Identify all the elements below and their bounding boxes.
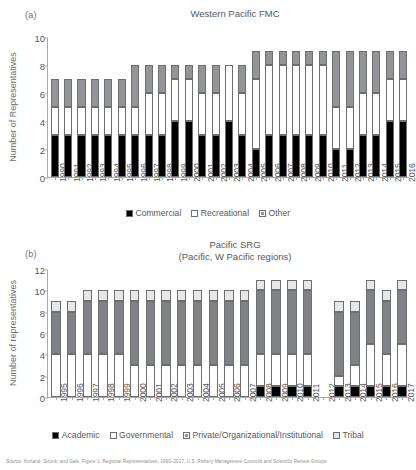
bar-segment[interactable] <box>240 290 249 301</box>
bar-segment[interactable] <box>131 65 139 107</box>
bar-segment[interactable] <box>171 79 179 121</box>
bar-segment[interactable] <box>359 51 367 93</box>
bar-segment[interactable] <box>104 107 112 135</box>
bar-segment[interactable] <box>104 79 112 107</box>
bar-segment[interactable] <box>372 51 380 93</box>
bar-segment[interactable] <box>332 107 340 149</box>
bar-segment[interactable] <box>212 93 220 135</box>
bar-segment[interactable] <box>271 290 280 354</box>
bar-segment[interactable] <box>161 301 170 365</box>
bar-segment[interactable] <box>305 65 313 135</box>
bar-segment[interactable] <box>265 135 273 177</box>
bar-segment[interactable] <box>158 93 166 135</box>
legend-item[interactable]: Other <box>259 208 290 218</box>
bar-group[interactable]: 1996 <box>64 270 80 397</box>
bar-group[interactable]: 2010 <box>316 38 329 177</box>
bar-group[interactable]: 1997 <box>79 270 95 397</box>
bar-segment[interactable] <box>271 354 280 386</box>
bar-segment[interactable] <box>98 290 107 301</box>
legend-item[interactable]: Private/Organizational/Institutional <box>183 430 323 440</box>
bar-segment[interactable] <box>334 301 343 312</box>
bar-segment[interactable] <box>98 301 107 354</box>
bar-group[interactable]: 2009 <box>303 38 316 177</box>
bar-segment[interactable] <box>193 290 202 301</box>
bar-group[interactable]: 2004 <box>236 38 249 177</box>
bar-group[interactable]: 2002 <box>209 38 222 177</box>
bar-segment[interactable] <box>177 301 186 365</box>
bar-segment[interactable] <box>292 65 300 135</box>
bar-group[interactable]: 2006 <box>263 38 276 177</box>
bar-segment[interactable] <box>397 344 406 387</box>
bar-segment[interactable] <box>366 280 375 291</box>
bar-segment[interactable] <box>51 312 60 355</box>
bar-segment[interactable] <box>366 290 375 343</box>
bar-segment[interactable] <box>161 290 170 301</box>
bar-segment[interactable] <box>118 79 126 107</box>
bar-group[interactable]: 2008 <box>289 38 302 177</box>
legend-item[interactable]: Governmental <box>110 430 173 440</box>
bar-segment[interactable] <box>397 280 406 291</box>
bar-group[interactable]: 2014 <box>370 38 383 177</box>
bar-group[interactable]: 1999 <box>169 38 182 177</box>
bar-segment[interactable] <box>118 107 126 135</box>
bar-segment[interactable] <box>67 301 76 312</box>
bar-segment[interactable] <box>366 344 375 387</box>
bar-group[interactable]: 2013 <box>331 270 347 397</box>
bar-segment[interactable] <box>397 290 406 343</box>
bar-segment[interactable] <box>265 51 273 65</box>
bar-segment[interactable] <box>279 51 287 65</box>
bar-segment[interactable] <box>114 301 123 354</box>
bar-segment[interactable] <box>225 65 233 121</box>
bar-group[interactable]: 2015 <box>363 270 379 397</box>
bar-segment[interactable] <box>386 51 394 79</box>
bar-segment[interactable] <box>146 301 155 365</box>
bar-segment[interactable] <box>177 290 186 301</box>
bar-group[interactable]: 2007 <box>276 38 289 177</box>
bar-segment[interactable] <box>145 65 153 93</box>
bar-segment[interactable] <box>382 301 391 354</box>
bar-group[interactable]: 1996 <box>128 38 141 177</box>
bar-segment[interactable] <box>130 301 139 365</box>
bar-segment[interactable] <box>287 290 296 354</box>
bar-segment[interactable] <box>238 93 246 135</box>
bar-segment[interactable] <box>256 290 265 354</box>
bar-segment[interactable] <box>240 301 249 365</box>
bar-segment[interactable] <box>279 65 287 135</box>
bar-segment[interactable] <box>252 79 260 149</box>
bar-segment[interactable] <box>256 280 265 291</box>
bar-segment[interactable] <box>185 79 193 121</box>
bar-group[interactable]: 1995 <box>48 270 64 397</box>
bar-segment[interactable] <box>350 301 359 312</box>
bar-segment[interactable] <box>332 51 340 107</box>
bar-segment[interactable] <box>158 65 166 93</box>
bar-group[interactable]: 2012 <box>343 38 356 177</box>
bar-segment[interactable] <box>238 65 246 93</box>
bar-segment[interactable] <box>252 51 260 79</box>
bar-segment[interactable] <box>171 65 179 79</box>
bar-segment[interactable] <box>382 290 391 301</box>
bar-group[interactable]: 2003 <box>222 38 235 177</box>
bar-segment[interactable] <box>64 107 72 135</box>
bar-segment[interactable] <box>399 79 407 121</box>
bar-segment[interactable] <box>382 354 391 386</box>
bar-group[interactable]: 1991 <box>61 38 74 177</box>
bar-segment[interactable] <box>83 301 92 354</box>
bar-segment[interactable] <box>212 65 220 93</box>
bar-segment[interactable] <box>145 93 153 135</box>
bar-group[interactable]: 2005 <box>205 270 221 397</box>
bar-segment[interactable] <box>305 51 313 65</box>
bar-group[interactable]: 2005 <box>249 38 262 177</box>
legend-item[interactable]: Recreational <box>191 208 249 218</box>
bar-segment[interactable] <box>64 135 72 177</box>
bar-group[interactable]: 2012 <box>316 270 332 397</box>
bar-segment[interactable] <box>303 280 312 291</box>
bar-group[interactable]: 2008 <box>253 270 269 397</box>
bar-segment[interactable] <box>77 79 85 107</box>
bar-segment[interactable] <box>193 301 202 365</box>
bar-group[interactable]: 2004 <box>190 270 206 397</box>
bar-group[interactable]: 2007 <box>237 270 253 397</box>
bar-segment[interactable] <box>51 79 59 107</box>
bar-segment[interactable] <box>287 354 296 386</box>
bar-group[interactable]: 2011 <box>300 270 316 397</box>
bar-segment[interactable] <box>224 290 233 301</box>
